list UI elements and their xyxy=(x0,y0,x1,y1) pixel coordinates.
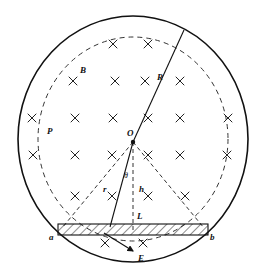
label-O: O xyxy=(127,128,134,138)
inner-dashed-circle xyxy=(38,37,228,241)
physics-diagram-figure: B P R O r h L θ a b E xyxy=(0,0,267,272)
diagram-canvas: B P R O r h L θ a b E xyxy=(0,0,267,272)
radius-r-line xyxy=(110,142,133,227)
label-b: b xyxy=(210,232,215,242)
label-P: P xyxy=(47,126,53,136)
label-h: h xyxy=(139,184,144,194)
left-dashed-ray xyxy=(62,142,133,228)
magnetic-field-marks-group xyxy=(28,40,232,247)
label-r: r xyxy=(103,184,107,194)
electric-field-arrow xyxy=(104,233,133,251)
label-B: B xyxy=(79,65,86,75)
label-E: E xyxy=(137,253,144,263)
label-R: R xyxy=(156,72,163,82)
label-a: a xyxy=(49,232,54,242)
label-L: L xyxy=(136,211,143,221)
hatched-bar xyxy=(58,224,208,235)
label-theta: θ xyxy=(124,171,128,180)
radius-R-line xyxy=(133,30,184,142)
center-point-O xyxy=(131,140,135,144)
